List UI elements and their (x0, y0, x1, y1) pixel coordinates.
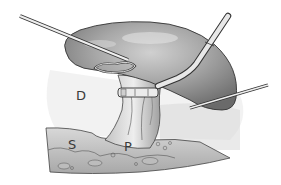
illustration: D S P (0, 0, 281, 185)
label-d: D (76, 89, 86, 102)
surgical-diagram (0, 0, 281, 185)
label-s: S (68, 138, 76, 151)
label-p: P (124, 140, 132, 153)
clip-applicator (118, 88, 158, 97)
